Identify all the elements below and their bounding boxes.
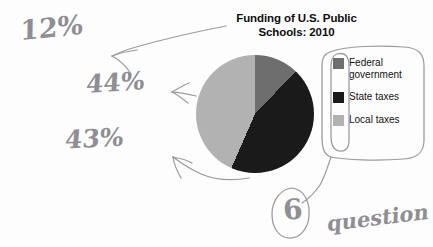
arrow-to-state-head — [172, 83, 189, 92]
worksheet-page: Funding of U.S. Public Schools: 2010 Fed… — [0, 0, 433, 247]
legend-item-state-taxes: State taxes — [333, 91, 429, 103]
annotation-state-percent: 44% — [85, 66, 145, 99]
annotation-local-percent: 43% — [64, 122, 125, 154]
annotation-question-word: question — [327, 199, 430, 237]
chart-title: Funding of U.S. Public Schools: 2010 — [214, 12, 379, 39]
annotation-federal-percent: 12% — [20, 9, 83, 47]
arrow-to-state-head2 — [172, 92, 188, 103]
legend-swatch-local-taxes — [333, 115, 344, 126]
legend-swatch-federal-government — [333, 58, 344, 69]
legend-label-federal-government: Federal government — [349, 57, 402, 80]
arrow-to-federal — [112, 26, 226, 56]
chart-title-text: Funding of U.S. Public Schools: 2010 — [236, 12, 356, 38]
arrow-to-federal-head — [112, 50, 137, 56]
legend-label-state-taxes: State taxes — [349, 91, 399, 103]
legend-item-federal-government: Federal government — [333, 57, 429, 80]
arrow-to-state — [172, 92, 196, 96]
arrow-to-local-head2 — [173, 157, 181, 178]
legend-label-local-taxes: Local taxes — [349, 114, 400, 126]
legend-swatch-state-taxes — [333, 92, 344, 103]
legend-item-local-taxes: Local taxes — [333, 114, 429, 126]
chart-legend: Federal government State taxes Local tax… — [333, 57, 429, 137]
pie-chart — [196, 55, 314, 173]
annotation-question-number: 6 — [282, 192, 304, 226]
pie-slices — [196, 55, 314, 173]
arrow-to-local-head — [173, 157, 192, 163]
